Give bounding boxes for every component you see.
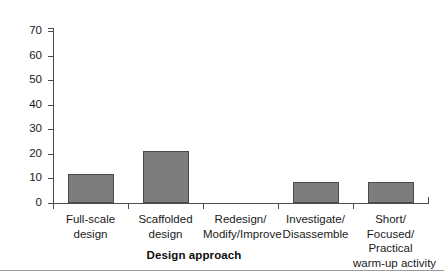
bar: [293, 182, 339, 203]
x-axis-category-label-line: Full-scale: [53, 212, 128, 227]
y-axis-tick-label: 30: [2, 123, 42, 135]
x-axis-line: [53, 203, 429, 204]
x-axis-category-label-line: Redesign/: [203, 212, 278, 227]
y-axis-tick-label: 10: [2, 172, 42, 184]
bar: [368, 182, 414, 203]
x-axis-tick: [278, 203, 279, 209]
y-axis-tick-label: 20: [2, 148, 42, 160]
x-axis-category-label-line: Disassemble: [278, 227, 353, 242]
x-axis-category-label-line: Investigate/: [278, 212, 353, 227]
x-axis-tick: [128, 203, 129, 209]
x-axis-category-label-line: design: [53, 227, 128, 242]
x-axis-category-label: Redesign/Modify/Improve: [203, 212, 278, 241]
x-axis-right-cap: [428, 197, 429, 204]
x-axis-category-label-line: design: [128, 227, 203, 242]
x-axis-category-label: Short/Focused/Practicalwarm-up activity: [353, 212, 428, 270]
x-axis-tick: [53, 203, 54, 209]
x-axis-title-text: Design approach: [147, 249, 242, 261]
bar: [68, 174, 114, 203]
x-axis-category-label: Full-scaledesign: [53, 212, 128, 241]
y-axis-tick-label: 50: [2, 74, 42, 86]
x-axis-category-label-line: Focused/: [353, 227, 428, 242]
x-axis-category-label-line: Short/: [353, 212, 428, 227]
x-axis-category-label: Scaffoldeddesign: [128, 212, 203, 241]
bottom-divider: [0, 270, 444, 271]
y-axis-tick-label: 70: [2, 25, 42, 37]
y-axis-top-cap: [48, 28, 54, 29]
x-axis-category-label-line: Modify/Improve: [203, 227, 278, 242]
bar-chart-figure: 706050403020100 Full-scaledesignScaffold…: [0, 0, 444, 279]
y-axis-tick-label: 0: [2, 197, 42, 209]
x-axis-title: Design approach: [0, 249, 444, 261]
x-axis-tick: [203, 203, 204, 209]
y-axis-tick-label: 40: [2, 99, 42, 111]
bars-container: [53, 31, 428, 203]
bar: [143, 151, 189, 203]
x-axis-tick: [353, 203, 354, 209]
x-axis-category-label: Investigate/Disassemble: [278, 212, 353, 241]
x-axis-category-label-line: Scaffolded: [128, 212, 203, 227]
y-axis-tick-label: 60: [2, 50, 42, 62]
